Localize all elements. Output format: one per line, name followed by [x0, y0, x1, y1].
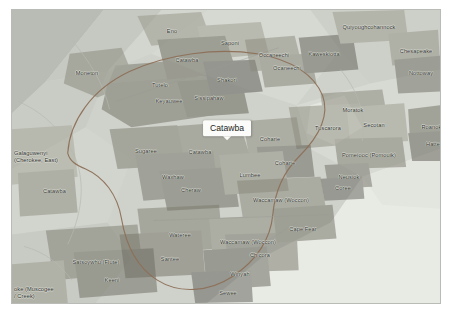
tooltip-label: Catawba: [210, 123, 244, 133]
tooltip-pointer-icon: [223, 136, 231, 140]
map-edge-label: Catawba: [43, 188, 66, 195]
map-viewport[interactable]: MonetonTuteloKeyauweeEnoSaponiCatawbaSis…: [0, 0, 452, 313]
map-edge-label: Galaguwenyi (Cherokee, East): [14, 150, 58, 164]
map-canvas[interactable]: MonetonTuteloKeyauweeEnoSaponiCatawbaSis…: [11, 9, 441, 304]
map-edge-label: oke (Muscogee / Creek): [14, 286, 54, 300]
edge-labels: Galaguwenyi (Cherokee, East)Catawbaoke (…: [12, 10, 440, 303]
selected-region-tooltip: Catawba: [203, 120, 251, 136]
